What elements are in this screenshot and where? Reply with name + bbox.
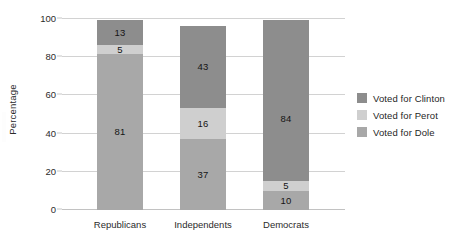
bar-value-democrats-perot: 5 (283, 181, 288, 191)
bar-group-republicans[interactable]: 13 5 81 Republicans (97, 18, 143, 210)
legend-swatch-dole-icon (357, 127, 367, 137)
bar-value-democrats-clinton: 84 (281, 114, 292, 124)
bar-segment-independents-perot[interactable]: 16 (180, 108, 226, 139)
bar-segment-republicans-perot[interactable]: 5 (97, 45, 143, 55)
bar-stack-republicans: 13 5 81 (97, 20, 143, 210)
bar-group-independents[interactable]: 43 16 37 Independents (180, 18, 226, 210)
page-edge-artifact (2, 112, 6, 142)
bar-segment-democrats-clinton[interactable]: 84 (263, 20, 309, 181)
bar-stack-democrats: 84 5 10 (263, 20, 309, 210)
chart-legend: Voted for Clinton Voted for Perot Voted … (357, 90, 445, 141)
bar-stack-independents: 43 16 37 (180, 26, 226, 210)
plot-area: 100 80 60 40 20 0 13 (62, 18, 345, 210)
legend-swatch-clinton-icon (357, 93, 367, 103)
bar-value-independents-clinton: 43 (198, 62, 209, 72)
bar-segment-democrats-dole[interactable]: 10 (263, 191, 309, 210)
bar-segment-republicans-clinton[interactable]: 13 (97, 20, 143, 45)
bar-value-republicans-clinton: 13 (115, 28, 126, 38)
y-axis-title: Percentage (7, 65, 18, 155)
bar-segment-democrats-perot[interactable]: 5 (263, 181, 309, 191)
bar-value-democrats-dole: 10 (281, 196, 292, 206)
legend-item-dole[interactable]: Voted for Dole (357, 124, 445, 140)
legend-item-clinton[interactable]: Voted for Clinton (357, 90, 445, 106)
bar-segment-republicans-dole[interactable]: 81 (97, 54, 143, 210)
y-tick-label-60: 60 (45, 89, 56, 100)
y-tick-label-100: 100 (40, 13, 56, 24)
y-tick-label-0: 0 (51, 204, 56, 215)
bar-value-republicans-perot: 5 (117, 45, 122, 55)
y-tick-label-40: 40 (45, 127, 56, 138)
bar-group-democrats[interactable]: 84 5 10 Democrats (263, 18, 309, 210)
legend-label-dole: Voted for Dole (373, 127, 435, 138)
stacked-bar-chart: Percentage 100 80 60 40 20 0 (0, 0, 466, 251)
bar-segment-independents-dole[interactable]: 37 (180, 139, 226, 210)
legend-swatch-perot-icon (357, 110, 367, 120)
bar-value-republicans-dole: 81 (115, 127, 126, 137)
legend-item-perot[interactable]: Voted for Perot (357, 107, 445, 123)
x-tick-label-democrats: Democrats (263, 219, 309, 230)
y-tick-label-20: 20 (45, 165, 56, 176)
x-tick-label-independents: Independents (174, 219, 232, 230)
y-tick-label-80: 80 (45, 51, 56, 62)
legend-label-clinton: Voted for Clinton (373, 93, 445, 104)
bar-value-independents-dole: 37 (198, 170, 209, 180)
x-tick-label-republicans: Republicans (94, 219, 146, 230)
bar-value-independents-perot: 16 (198, 119, 209, 129)
bar-segment-independents-clinton[interactable]: 43 (180, 26, 226, 109)
bars-layer: 13 5 81 Republicans 43 (62, 18, 345, 210)
legend-label-perot: Voted for Perot (373, 110, 438, 121)
